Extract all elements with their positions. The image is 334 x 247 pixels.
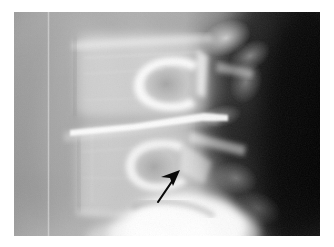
film-grain xyxy=(14,12,320,236)
radiograph-figure xyxy=(14,12,320,236)
radiograph-image xyxy=(14,12,320,236)
